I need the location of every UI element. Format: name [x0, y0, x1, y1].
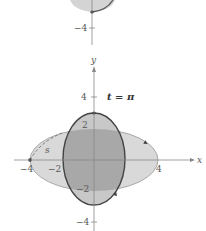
tick-label-x-pos4: 4	[156, 164, 162, 174]
y-axis-arrow	[92, 66, 96, 72]
main-panel: s x y 4 2 −2 −4 −4 −2 4 t = π	[14, 55, 202, 231]
tick-label-y-pos2: 2	[82, 120, 88, 130]
parameter-label: t = π	[107, 91, 135, 102]
top-tick-label-neg4: −4	[74, 23, 88, 33]
diagram-canvas: −4 s x y 4 2 −2 −4 −4 −2 4	[0, 0, 206, 231]
tick-label-x-neg4: −4	[20, 164, 34, 174]
tick-label-y-neg2: −2	[76, 184, 89, 194]
x-axis-arrow	[190, 158, 195, 162]
top-panel: −4	[70, 0, 115, 45]
y-axis-label: y	[90, 55, 97, 65]
arc-label-s: s	[45, 145, 50, 155]
x-axis-label: x	[197, 155, 202, 165]
tick-label-y-pos4: 4	[81, 92, 87, 102]
tick-label-x-neg2: −2	[48, 164, 61, 174]
tick-label-y-neg4: −4	[76, 217, 90, 227]
